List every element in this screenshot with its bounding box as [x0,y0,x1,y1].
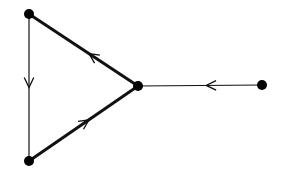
nodes-layer [24,9,267,166]
edge-line [29,14,138,86]
edges-layer [24,14,262,161]
node-C [133,81,143,91]
edge-C-A [29,14,138,86]
graph-canvas [0,0,286,175]
edge-A-B [24,14,34,161]
edge-D-C [138,81,262,91]
edge-B-C [29,86,138,161]
node-D [257,80,267,90]
node-A [24,9,34,19]
node-B [24,156,34,166]
edge-line [138,85,262,86]
edge-line [29,86,138,161]
